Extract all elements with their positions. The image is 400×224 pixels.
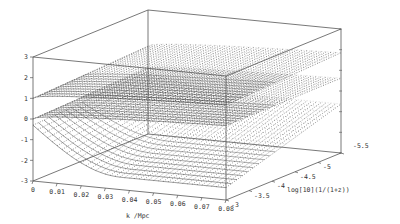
y-tick-label: -5.5 <box>353 142 369 150</box>
y-tick-label: -3 <box>231 201 239 209</box>
y-axis-ticks: -3-3.5-4-4.5-5-5.5 <box>226 142 369 209</box>
x-tick-label: 0.02 <box>73 191 89 199</box>
y-tick-label: -3.5 <box>254 192 270 200</box>
x-tick-label: 0.01 <box>49 188 65 196</box>
z-tick-label: 2 <box>24 74 28 82</box>
x-tick-label: 0.06 <box>170 200 186 208</box>
surface-2 <box>33 72 341 188</box>
z-tick-label: 3 <box>24 53 28 61</box>
z-tick-label: 1 <box>24 95 28 103</box>
z-tick-label: 0 <box>24 115 28 123</box>
x-tick-label: 0.03 <box>98 193 114 201</box>
x-axis-label: k /Mpc <box>126 212 150 220</box>
z-tick-label: -2 <box>20 157 28 165</box>
y-tick-label: -4.5 <box>300 173 316 181</box>
z-tick-label: -1 <box>20 136 28 144</box>
y-axis-label: log[10](1/(1+z)) <box>287 186 350 194</box>
y-tick-label: -4 <box>277 182 285 190</box>
x-tick-label: 0.05 <box>146 198 162 206</box>
y-tick-label: -5 <box>323 163 331 171</box>
surface-plot-3d: 3210-1-2-3 00.010.020.030.040.050.060.07… <box>0 0 400 224</box>
x-tick-label: 0.07 <box>194 203 210 211</box>
surface-meshes <box>33 44 341 188</box>
x-axis-ticks: 00.010.020.030.040.050.060.070.08 <box>31 181 234 213</box>
x-tick-label: 0 <box>31 186 35 194</box>
z-tick-label: -3 <box>20 177 28 185</box>
x-tick-label: 0.04 <box>122 196 138 204</box>
